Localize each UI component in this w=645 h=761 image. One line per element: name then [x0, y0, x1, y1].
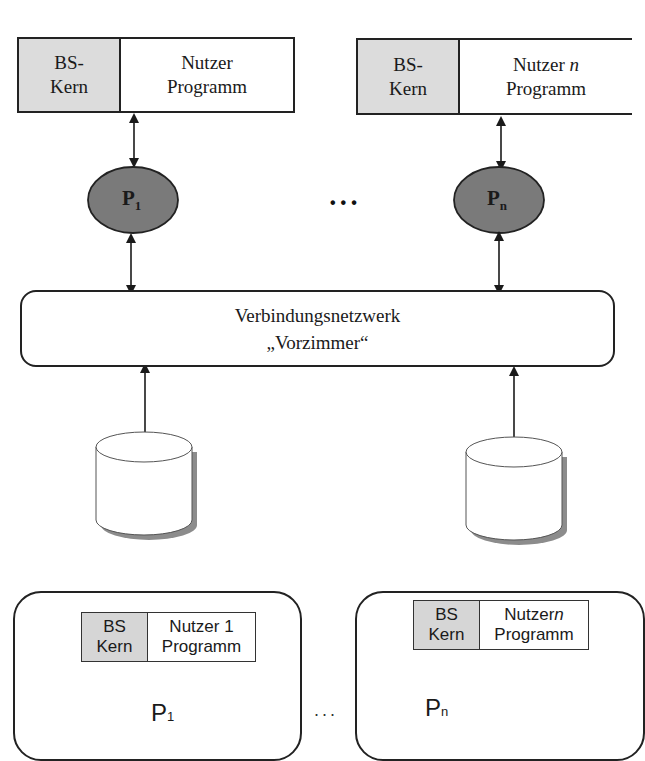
bottom-processor-pn-label: Pn — [425, 694, 448, 722]
kernel-label: BS Kern — [97, 617, 133, 657]
program-label-line2: Programm — [506, 77, 586, 101]
kernel-cell-n: BS- Kern — [358, 40, 460, 113]
bottom-kernel-cell-n: BS Kern — [414, 601, 480, 649]
program-label-line2: Programm — [167, 75, 247, 99]
program-label-line2: Programm — [494, 625, 573, 645]
bottom-kernel-cell-1: BS Kern — [82, 613, 148, 661]
program-label-line1: Nutzer — [513, 54, 569, 75]
kernel-label: BS Kern — [429, 605, 465, 645]
user-block-1: BS- Kern Nutzer Programm — [17, 37, 295, 113]
processor-pn-label: Pn — [487, 186, 507, 214]
program-label-italic: n — [569, 54, 579, 75]
program-label-italic: n — [554, 605, 563, 624]
processor-p1-label: P1 — [122, 186, 141, 214]
program-cell-n: Nutzer n Programm — [460, 40, 632, 113]
kernel-label: BS- Kern — [50, 51, 88, 99]
bottom-ellipsis: ... — [314, 700, 338, 721]
bottom-user-block-n: BS Kern Nutzern Programm — [413, 600, 589, 650]
bottom-user-block-1: BS Kern Nutzer 1 Programm — [81, 612, 256, 662]
program-cell-1: Nutzer Programm — [121, 39, 293, 111]
user-block-n: BS- Kern Nutzer n Programm — [356, 38, 632, 115]
program-label-line2: Programm — [162, 637, 241, 657]
bottom-program-cell-n: Nutzern Programm — [480, 601, 588, 649]
interconnect-network: Verbindungsnetzwerk „Vorzimmer“ — [20, 290, 615, 367]
storage-disk-1-icon — [96, 432, 197, 540]
bottom-processor-p1-label: P1 — [151, 699, 174, 727]
program-label-line1: Nutzer — [504, 605, 554, 624]
ellipsis-dots: ••• — [330, 194, 362, 212]
bottom-program-cell-1: Nutzer 1 Programm — [148, 613, 255, 661]
network-title: Verbindungsnetzwerk — [235, 302, 401, 329]
program-label-line1: Nutzer 1 — [162, 617, 241, 637]
network-subtitle: „Vorzimmer“ — [267, 329, 369, 356]
storage-disk-n-icon — [466, 437, 567, 545]
kernel-cell-1: BS- Kern — [19, 39, 121, 111]
kernel-label: BS- Kern — [389, 53, 427, 101]
program-label-line1: Nutzer — [181, 52, 233, 73]
